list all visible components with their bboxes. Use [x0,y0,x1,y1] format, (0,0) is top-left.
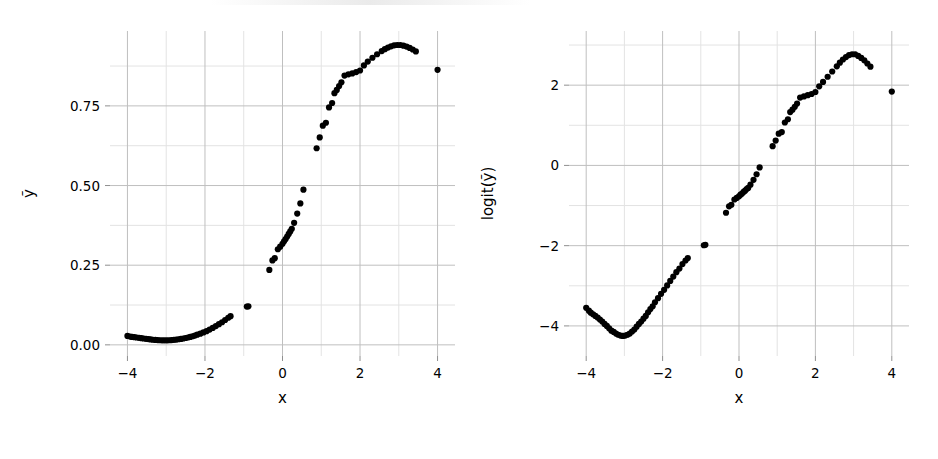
y-tick-label: −4 [539,318,559,334]
panel-right-logit-scale: −4−2024−4−202xlogit(ỹ) [469,0,938,459]
left-plot-svg: −4−20240.000.250.500.75xỹ [0,0,469,459]
scatter-point [338,79,344,85]
scatter-point [227,313,233,319]
scatter-point [297,200,303,206]
y-axis-title: logit(ỹ) [479,167,497,221]
scatter-point [889,88,895,94]
scatter-point [329,100,335,106]
scatter-point [294,210,300,216]
x-tick-label: 0 [735,365,744,381]
x-tick-label: −4 [576,365,596,381]
y-tick-label: 0.00 [70,337,100,353]
tick-marks [564,85,892,361]
x-tick-label: −2 [653,365,673,381]
scatter-point [829,68,835,74]
scatter-point [413,48,419,54]
y-tick-label: 0.50 [70,178,100,194]
scatter-point [728,202,734,208]
tick-labels: −4−2024−4−202 [539,77,896,381]
scatter-point [323,120,329,126]
gridlines [110,31,455,356]
scatter-point [317,134,323,140]
tick-marks [105,106,438,361]
scatter-point [434,67,440,73]
scatter-point [867,64,873,70]
x-axis-title: x [735,389,744,407]
scatter-point [750,177,756,183]
scatter-point [272,255,278,261]
x-axis-title: x [278,389,287,407]
scatter-point [685,255,691,261]
y-tick-label: 2 [550,77,559,93]
scatter-point [314,145,320,151]
scan-artifact-band [210,0,530,5]
tick-labels: −4−20240.000.250.500.75 [70,98,442,381]
scatter-point [266,267,272,273]
y-axis-title: ỹ [20,189,38,198]
scatter-point [773,137,779,143]
scatter-point [300,187,306,193]
y-tick-label: 0 [550,157,559,173]
y-tick-label: 0.75 [70,98,100,114]
scatter-point [820,79,826,85]
scatter-point [723,210,729,216]
scatter-point [812,89,818,95]
scatter-point [245,303,251,309]
scatter-point [357,67,363,73]
x-tick-label: 0 [278,365,287,381]
scatter-point [779,129,785,135]
y-tick-label: 0.25 [70,257,100,273]
x-tick-label: 2 [811,365,820,381]
scatter-point [702,242,708,248]
figure-two-panel-scatter: −4−20240.000.250.500.75xỹ −4−2024−4−202x… [0,0,938,459]
y-tick-label: −2 [539,238,559,254]
scatter-point [289,226,295,232]
panel-left-probability-scale: −4−20240.000.250.500.75xỹ [0,0,469,459]
scatter-point [825,74,831,80]
x-tick-label: 4 [433,365,442,381]
scatter-point [757,164,763,170]
right-plot-svg: −4−2024−4−202xlogit(ỹ) [469,0,938,459]
scatter-point [291,220,297,226]
scatter-point [794,101,800,107]
scatter-point [785,116,791,122]
scatter-point [753,171,759,177]
x-tick-label: 2 [356,365,365,381]
scatter-point [770,143,776,149]
x-tick-label: 4 [888,365,897,381]
x-tick-label: −2 [195,365,215,381]
x-tick-label: −4 [117,365,137,381]
